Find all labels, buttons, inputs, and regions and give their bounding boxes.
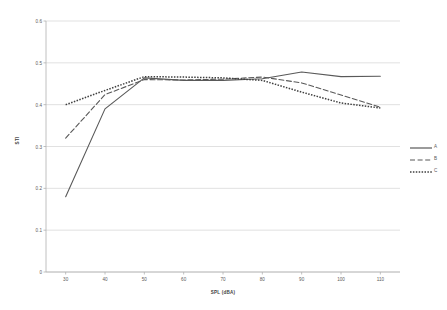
x-axis-tick-label: 90	[299, 277, 304, 282]
legend-label-a: A	[434, 144, 437, 149]
chart-container: 00.10.20.30.40.50.6 30405060708090100110…	[0, 0, 447, 310]
x-axis-tick-label: 50	[142, 277, 147, 282]
legend-label-c: C	[434, 168, 437, 173]
y-axis-tick-label: 0.6	[18, 19, 42, 24]
x-axis-tick-label: 40	[102, 277, 107, 282]
y-axis-title: STI	[15, 130, 20, 152]
y-axis-tick-label: 0.3	[18, 144, 42, 149]
y-axis-tick-label: 0.5	[18, 60, 42, 65]
series-line-a	[66, 72, 381, 197]
x-axis-tick-label: 110	[377, 277, 384, 282]
y-axis-tick-labels: 00.10.20.30.40.50.6	[18, 0, 42, 310]
legend-swatch-c	[410, 170, 432, 171]
y-axis-tick-label: 0.4	[18, 102, 42, 107]
line-chart-plot	[0, 0, 447, 310]
x-axis-tick-label: 30	[63, 277, 68, 282]
x-axis-tick-label: 80	[260, 277, 265, 282]
legend-item-c[interactable]: C	[410, 164, 447, 176]
y-axis-tick-label: 0.1	[18, 228, 42, 233]
y-axis-tick-label: 0.2	[18, 186, 42, 191]
x-axis-title: SPL (dBA)	[46, 290, 400, 295]
chart-legend: ABC	[410, 140, 447, 176]
y-axis-tick-label: 0	[18, 270, 42, 275]
legend-swatch-b	[410, 158, 432, 159]
legend-item-b[interactable]: B	[410, 152, 447, 164]
legend-swatch-a	[410, 146, 432, 147]
x-axis-tick-label: 60	[181, 277, 186, 282]
x-axis-tick-label: 70	[220, 277, 225, 282]
legend-label-b: B	[434, 156, 437, 161]
legend-item-a[interactable]: A	[410, 140, 447, 152]
series-line-b	[66, 77, 381, 138]
x-axis-tick-label: 100	[337, 277, 345, 282]
